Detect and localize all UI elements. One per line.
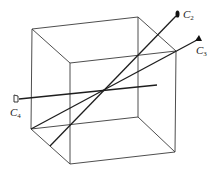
c4-square-marker-icon [14,95,18,102]
c2-ellipse-marker-icon [176,10,180,17]
label-c2: C2 [183,8,194,22]
cube-back-face [31,17,138,129]
ray-c2 [50,16,176,146]
label-c4: C4 [10,106,21,120]
cube-front-face [70,51,176,164]
ray-c4 [19,85,157,99]
cube-edge-bottom-right [138,117,175,152]
c3-triangle-marker-icon [195,35,202,41]
ray-c3 [31,40,197,129]
label-c3: C3 [196,44,207,58]
cube-diagram: C2 C3 C4 [0,0,220,171]
cube-edge-top-left [32,29,70,63]
cube-edge-bottom-left [31,129,70,164]
